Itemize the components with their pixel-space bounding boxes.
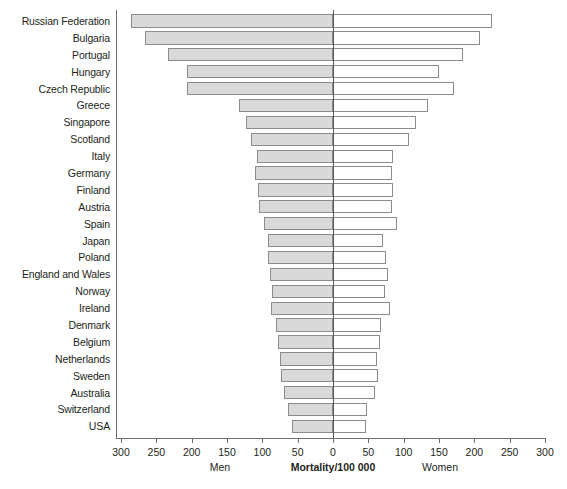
bar-women [333, 318, 381, 331]
x-axis-tick-label: 0 [313, 446, 353, 458]
category-label: Netherlands [0, 351, 116, 368]
x-axis-tick-label: 300 [101, 446, 141, 458]
x-axis-tick [404, 438, 405, 443]
bar-men [264, 217, 333, 230]
bar-women [333, 335, 380, 348]
category-label: Ireland [0, 300, 116, 317]
category-label: Austria [0, 199, 116, 216]
bar-women [333, 48, 463, 61]
bar-men [239, 99, 333, 112]
bar-men [251, 133, 333, 146]
bar-men [292, 420, 333, 433]
bar-men [270, 268, 333, 281]
x-axis-tick-label: 250 [136, 446, 176, 458]
category-label: Denmark [0, 317, 116, 334]
bar-women [333, 150, 393, 163]
category-label: Finland [0, 182, 116, 199]
zero-reference-line [333, 10, 334, 438]
category-label: Australia [0, 385, 116, 402]
x-axis-tick [298, 438, 299, 443]
bar-men [168, 48, 333, 61]
x-axis-tick-label: 50 [348, 446, 388, 458]
category-label: Sweden [0, 368, 116, 385]
x-axis-tick [192, 438, 193, 443]
x-axis-tick-label: 300 [525, 446, 565, 458]
bar-women [333, 200, 392, 213]
mortality-diverging-bar-chart: Russian FederationBulgariaPortugalHungar… [0, 0, 567, 489]
bar-women [333, 217, 397, 230]
bar-women [333, 31, 480, 44]
bar-men [246, 116, 333, 129]
category-label: Czech Republic [0, 81, 116, 98]
x-axis-line [116, 438, 546, 439]
bar-men [187, 65, 333, 78]
bar-men [280, 352, 333, 365]
bar-women [333, 403, 367, 416]
bar-men [255, 166, 333, 179]
category-label: Italy [0, 148, 116, 165]
bar-women [333, 369, 378, 382]
bar-women [333, 116, 416, 129]
x-axis-tick-label: 200 [172, 446, 212, 458]
x-axis-tick [545, 438, 546, 443]
bar-women [333, 386, 375, 399]
category-label: Norway [0, 283, 116, 300]
bar-men [272, 285, 333, 298]
category-label: USA [0, 418, 116, 435]
bar-women [333, 99, 428, 112]
y-axis-line [116, 10, 117, 438]
bar-men [258, 183, 333, 196]
bar-men [145, 31, 333, 44]
x-axis-tick [474, 438, 475, 443]
bar-men [271, 302, 333, 315]
category-label: Russian Federation [0, 13, 116, 30]
x-axis-title: Mortality/100 000 [272, 461, 394, 473]
category-label: Germany [0, 165, 116, 182]
legend-label-women: Women [400, 461, 480, 473]
x-axis-tick-label: 250 [490, 446, 530, 458]
category-label-column: Russian FederationBulgariaPortugalHungar… [0, 13, 116, 435]
bar-men [268, 251, 333, 264]
legend-label-men: Men [180, 461, 260, 473]
x-axis-tick [121, 438, 122, 443]
x-axis-tick-label: 200 [454, 446, 494, 458]
x-axis-tick [333, 438, 334, 443]
x-axis-tick [262, 438, 263, 443]
category-label: Scotland [0, 131, 116, 148]
bar-men [284, 386, 333, 399]
bar-men [281, 369, 333, 382]
x-axis-tick-label: 50 [278, 446, 318, 458]
bar-women [333, 234, 383, 247]
category-label: Bulgaria [0, 30, 116, 47]
category-label: Belgium [0, 334, 116, 351]
bar-men [268, 234, 333, 247]
category-label: Poland [0, 249, 116, 266]
bar-women [333, 14, 492, 27]
bar-women [333, 82, 454, 95]
bar-women [333, 420, 366, 433]
x-axis-tick [156, 438, 157, 443]
x-axis-tick-label: 150 [207, 446, 247, 458]
bar-men [257, 150, 333, 163]
bar-women [333, 183, 393, 196]
bar-men [259, 200, 333, 213]
category-label: Portugal [0, 47, 116, 64]
bar-men [187, 82, 333, 95]
category-label: England and Wales [0, 266, 116, 283]
x-axis-tick-label: 150 [419, 446, 459, 458]
bar-women [333, 285, 385, 298]
bar-men [131, 14, 333, 27]
bar-women [333, 302, 390, 315]
category-label: Hungary [0, 64, 116, 81]
x-axis-tick-label: 100 [242, 446, 282, 458]
category-label: Switzerland [0, 401, 116, 418]
bar-women [333, 268, 388, 281]
bar-men [276, 318, 333, 331]
x-axis-tick [510, 438, 511, 443]
bar-women [333, 352, 377, 365]
x-axis-tick [439, 438, 440, 443]
x-axis-tick-label: 100 [384, 446, 424, 458]
category-label: Spain [0, 216, 116, 233]
bar-women [333, 251, 386, 264]
bar-women [333, 166, 392, 179]
